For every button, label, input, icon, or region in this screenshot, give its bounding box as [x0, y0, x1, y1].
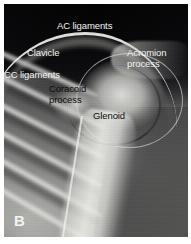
panel-letter: B: [14, 213, 25, 228]
annotation-ac-ligaments: AC ligaments: [57, 21, 112, 32]
annotation-clavicle: Clavicle: [27, 48, 59, 59]
annotation-coracoid-process: Coracoid process: [49, 84, 86, 105]
annotation-cc-ligaments: CC ligaments: [4, 70, 60, 81]
annotation-glenoid: Glenoid: [93, 111, 125, 122]
radiograph-image: AC ligaments Clavicle Acromion process C…: [4, 4, 188, 237]
radiograph-figure: AC ligaments Clavicle Acromion process C…: [0, 0, 191, 244]
annotation-acromion-process: Acromion process: [127, 48, 166, 69]
